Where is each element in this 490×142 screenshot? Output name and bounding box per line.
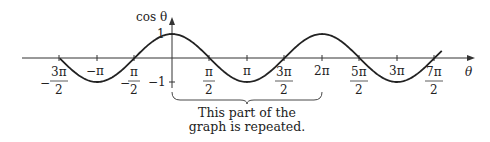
svg-text:2: 2 <box>280 83 288 97</box>
svg-text:−: − <box>120 76 130 90</box>
x-label-3pi-over-2: 3π 2 <box>275 65 293 97</box>
caption-line-2: graph is repeated. <box>189 119 305 134</box>
x-label-pi-over-2: π 2 <box>203 65 215 97</box>
caption-line-1: This part of the <box>198 105 296 120</box>
repeat-brace <box>172 92 322 104</box>
y-label-1: 1 <box>157 27 165 41</box>
svg-text:7π: 7π <box>426 65 442 79</box>
svg-text:3π: 3π <box>276 65 292 79</box>
x-label-neg-3pi-over-2: − 3π 2 <box>40 65 68 97</box>
svg-text:−: − <box>40 76 50 90</box>
svg-text:2: 2 <box>205 83 213 97</box>
x-axis-label: θ <box>465 65 473 79</box>
svg-text:2: 2 <box>430 83 438 97</box>
x-label-5pi-over-2: 5π 2 <box>350 65 368 97</box>
x-label-neg-pi: −π <box>86 64 104 78</box>
x-label-3pi: 3π <box>389 64 405 78</box>
x-label-pi: π <box>243 64 251 78</box>
svg-text:2: 2 <box>355 83 363 97</box>
x-label-2pi: 2π <box>314 64 330 78</box>
svg-text:2: 2 <box>130 83 138 97</box>
svg-text:π: π <box>130 65 138 79</box>
svg-text:π: π <box>205 65 213 79</box>
svg-text:3π: 3π <box>51 65 67 79</box>
cosine-graph: cos θ θ 1 −1 − 3π 2 −π − π 2 π 2 π 3π 2 … <box>0 0 490 142</box>
svg-text:2: 2 <box>55 83 63 97</box>
x-label-7pi-over-2: 7π 2 <box>425 65 443 97</box>
x-axis-arrow-icon <box>467 55 475 61</box>
y-axis-label: cos θ <box>136 10 167 24</box>
svg-text:5π: 5π <box>351 65 367 79</box>
y-label-neg1: −1 <box>148 75 166 89</box>
y-axis-arrow-icon <box>169 17 175 25</box>
